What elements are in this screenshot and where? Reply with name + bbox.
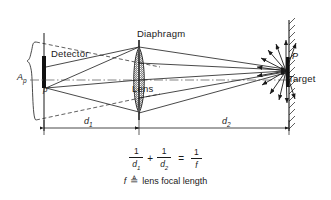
- diaphragm-label: Diaphragm: [137, 29, 185, 39]
- equals-operator: =: [178, 152, 184, 164]
- focal-length-symbol: f: [124, 176, 127, 186]
- optics-diagram: Detector Diaphragm Lens Target Ap p' P d…: [0, 0, 331, 200]
- aperture-area-subscript: p: [23, 77, 27, 84]
- distance-d2-subscript: 2: [227, 121, 231, 128]
- denominator-f: f: [192, 160, 200, 170]
- distance-d1-subscript: 1: [89, 121, 93, 128]
- distance-d1-label: d1: [84, 117, 93, 128]
- numerator-2: 1: [159, 146, 170, 156]
- target-label: Target: [288, 74, 316, 84]
- lens-equation: 1 d1 + 1 d2 = 1 f: [0, 146, 331, 171]
- target-point-label: P: [292, 52, 298, 61]
- numerator-3: 1: [191, 147, 202, 157]
- fraction-one-over-d1: 1 d1: [129, 146, 143, 171]
- fraction-one-over-f: 1 f: [191, 147, 202, 170]
- denominator-d1: d1: [129, 159, 143, 171]
- fraction-one-over-d2: 1 d2: [157, 146, 171, 171]
- fraction-bar: [129, 157, 143, 158]
- focal-length-text: lens focal length: [142, 176, 207, 186]
- defined-as-operator: ≜: [130, 175, 138, 186]
- aperture-brace: [27, 42, 36, 120]
- fraction-bar: [157, 157, 171, 158]
- lens-label: Lens: [132, 84, 153, 94]
- detector-element: [42, 56, 46, 88]
- dimension-d2: [139, 120, 289, 135]
- source-point-label: p': [43, 86, 49, 94]
- fraction-bar: [191, 158, 202, 159]
- denominator-d2: d2: [157, 159, 171, 171]
- aperture-area-label: Ap: [17, 73, 27, 84]
- focal-length-definition: f ≜ lens focal length: [0, 175, 331, 186]
- distance-d2-label: d2: [222, 117, 231, 128]
- numerator-1: 1: [131, 146, 142, 156]
- detector-label: Detector: [51, 49, 89, 59]
- plus-operator: +: [147, 152, 153, 164]
